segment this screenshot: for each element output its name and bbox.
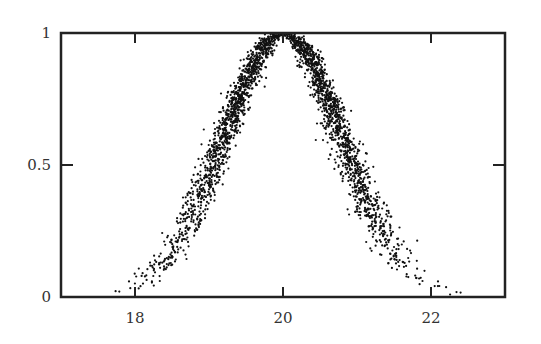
y-tick-label: 0 (41, 288, 51, 306)
y-tick-label: 1 (41, 24, 51, 42)
x-tick-label: 20 (273, 309, 292, 327)
x-tick-label: 22 (421, 309, 440, 327)
x-axis-ticks: 182022 (125, 33, 440, 327)
plot-frame (61, 33, 505, 297)
scatter-chart: 182022 00.51 (0, 0, 541, 344)
data-points (115, 32, 462, 296)
y-tick-label: 0.5 (27, 156, 51, 174)
x-tick-label: 18 (125, 309, 144, 327)
